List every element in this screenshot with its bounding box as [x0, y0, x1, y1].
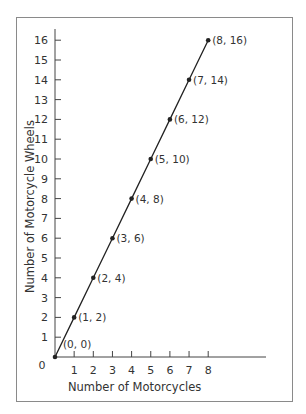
y-tick-label: 1 [41, 331, 48, 344]
data-point [91, 276, 96, 281]
x-axis-title: Number of Motorcycles [68, 380, 201, 394]
y-tick-label: 7 [41, 212, 48, 225]
y-tick-label: 14 [34, 74, 48, 87]
y-tick-label: 2 [41, 311, 48, 324]
y-tick-label: 15 [34, 54, 48, 67]
y-axis-title: Number of Motorcycle Wheels [23, 120, 37, 293]
point-label: (8, 16) [212, 34, 247, 46]
y-tick-label: 5 [41, 252, 48, 265]
x-tick-label: 6 [166, 364, 173, 377]
y-tick-label: 9 [41, 173, 48, 186]
x-tick-label: 3 [109, 364, 116, 377]
x-tick-label: 7 [186, 364, 193, 377]
data-point [53, 355, 58, 360]
point-label: (1, 2) [78, 311, 106, 323]
data-point [148, 157, 153, 162]
x-tick-label: 2 [90, 364, 97, 377]
data-point [129, 196, 134, 201]
y-tick-label: 4 [41, 272, 48, 285]
line-chart: 12345678910111213141516123456780Number o… [0, 0, 306, 414]
x-tick-label: 5 [147, 364, 154, 377]
y-tick-label: 6 [41, 232, 48, 245]
point-label: (6, 12) [174, 113, 209, 125]
data-point [168, 117, 173, 122]
data-point [206, 38, 211, 43]
x-tick-label: 4 [128, 364, 135, 377]
y-tick-label: 13 [34, 94, 48, 107]
data-point [72, 315, 77, 320]
point-label: (0, 0) [63, 338, 91, 350]
point-label: (7, 14) [193, 74, 228, 86]
data-point [187, 78, 192, 83]
data-point [110, 236, 115, 241]
point-label: (5, 10) [155, 153, 190, 165]
point-label: (3, 6) [116, 232, 144, 244]
origin-label: 0 [39, 359, 46, 372]
x-tick-label: 8 [205, 364, 212, 377]
y-tick-label: 8 [41, 193, 48, 206]
point-label: (2, 4) [97, 272, 125, 284]
y-tick-label: 3 [41, 292, 48, 305]
y-tick-label: 16 [34, 34, 48, 47]
point-label: (4, 8) [136, 193, 164, 205]
x-tick-label: 1 [71, 364, 78, 377]
